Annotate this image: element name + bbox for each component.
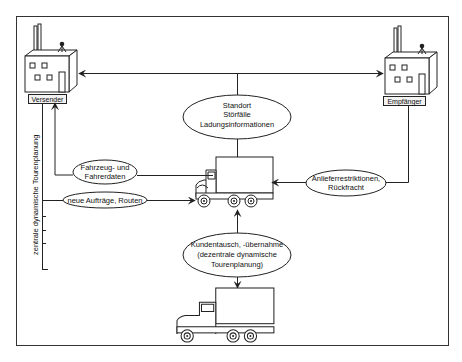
central-planning-label: zentrale dynamische Tourenplanung [31,135,40,255]
status-text-2: Störfälle [223,110,251,119]
new-orders-text: neue Aufträge, Routen [67,196,142,205]
exchange-text-2: (dezentrale dynamische [197,250,277,259]
status-text-3: Ladungsinformationen [200,120,274,129]
delivery-text-2: Rückfracht [328,183,365,192]
vehicle-data-text-1: Fahrzeug- und [81,163,130,172]
vehicle-data-arrow [55,103,73,175]
exchange-text-3: Tourenplanung) [211,260,264,269]
vehicle-data-text-2: Fahrerdaten [85,172,126,181]
connector-line [386,105,409,183]
delivery-text-1: Anlieferrestriktionen, [312,174,380,183]
status-text-1: Standort [223,101,252,110]
shipper-factory-icon [25,24,77,92]
other-truck-icon [177,288,274,342]
central-truck-icon [196,157,273,207]
receiver-factory-icon [385,26,437,94]
receiver-label: Empfänger [387,98,422,106]
exchange-text-1: Kundentausch, -übernahme [191,240,284,249]
logistics-diagram: Versender Empfänger Standort Störfälle L… [0,0,462,362]
shipper-label: Versender [32,96,65,103]
